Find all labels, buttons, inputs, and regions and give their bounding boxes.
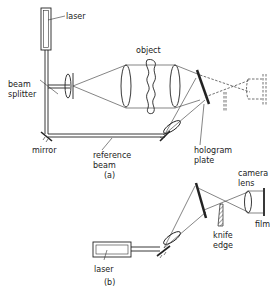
label-knife-edge-1: knife	[213, 231, 233, 240]
label-beam-splitter-1: beam	[8, 80, 31, 89]
mirror-b	[157, 246, 170, 258]
reference-mirror	[160, 131, 170, 141]
label-beam-splitter-2: splitter	[8, 90, 37, 99]
label-camera-lens-1: camera	[238, 169, 268, 178]
panel-a: laser beam splitter object	[8, 8, 266, 180]
spatial-filter-lens	[65, 73, 73, 99]
panel-b: laser (b) knife edge camera l	[93, 169, 270, 287]
label-reference-beam-1: reference	[93, 151, 131, 160]
label-laser-a: laser	[66, 12, 86, 21]
laser-a	[41, 8, 65, 50]
camera-lens	[245, 191, 252, 213]
laser-b	[93, 242, 131, 260]
caption-b: (b)	[104, 278, 115, 287]
label-mirror: mirror	[32, 146, 57, 155]
hologram-plate-a	[197, 70, 209, 104]
label-camera-lens-2: lens	[238, 179, 254, 188]
label-knife-edge-2: edge	[213, 241, 233, 250]
hologram-plate-b	[196, 183, 206, 218]
label-laser-b: laser	[94, 265, 114, 274]
label-hologram-plate-1: hologram	[194, 146, 232, 155]
object-shape	[146, 59, 155, 113]
label-object: object	[136, 46, 161, 55]
label-film: film	[255, 220, 270, 229]
caption-a: (a)	[104, 171, 115, 180]
label-reference-beam-2: beam	[93, 161, 116, 170]
holography-schlieren-diagram: laser beam splitter object	[0, 0, 277, 293]
beam-splitter	[40, 80, 58, 94]
collimating-lens	[121, 65, 131, 107]
label-hologram-plate-2: plate	[194, 156, 214, 165]
knife-edge	[218, 204, 223, 226]
focusing-lens	[170, 65, 180, 107]
